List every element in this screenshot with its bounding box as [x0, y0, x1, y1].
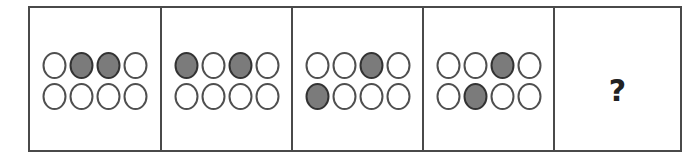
empty-circle [517, 52, 541, 79]
empty-circle [359, 83, 383, 110]
empty-circle [70, 83, 94, 110]
filled-circle [305, 83, 329, 110]
empty-circle [228, 83, 252, 110]
panel-4 [424, 8, 555, 150]
empty-circle [255, 83, 279, 110]
empty-circle [255, 52, 279, 79]
filled-circle [70, 52, 94, 79]
empty-circle [124, 83, 148, 110]
filled-circle [228, 52, 252, 79]
empty-circle [490, 83, 514, 110]
panel-2 [162, 8, 293, 150]
question-mark: ? [555, 76, 680, 106]
empty-circle [201, 83, 225, 110]
empty-circle [305, 52, 329, 79]
empty-circle [386, 52, 410, 79]
circle-grid [305, 52, 410, 110]
circle-grid [436, 52, 541, 110]
empty-circle [436, 52, 460, 79]
filled-circle [463, 83, 487, 110]
empty-circle [517, 83, 541, 110]
empty-circle [43, 83, 67, 110]
empty-circle [386, 83, 410, 110]
empty-circle [43, 52, 67, 79]
circle-grid [174, 52, 279, 110]
empty-circle [332, 52, 356, 79]
empty-circle [174, 83, 198, 110]
empty-circle [124, 52, 148, 79]
filled-circle [490, 52, 514, 79]
empty-circle [201, 52, 225, 79]
empty-circle [463, 52, 487, 79]
panel-1 [30, 8, 162, 150]
empty-circle [332, 83, 356, 110]
filled-circle [174, 52, 198, 79]
empty-circle [436, 83, 460, 110]
empty-circle [97, 83, 121, 110]
circle-grid [43, 52, 148, 110]
filled-circle [97, 52, 121, 79]
panel-3 [293, 8, 424, 150]
filled-circle [359, 52, 383, 79]
puzzle-frame: ? [28, 6, 682, 152]
panel-5-answer[interactable]: ? [555, 8, 680, 150]
